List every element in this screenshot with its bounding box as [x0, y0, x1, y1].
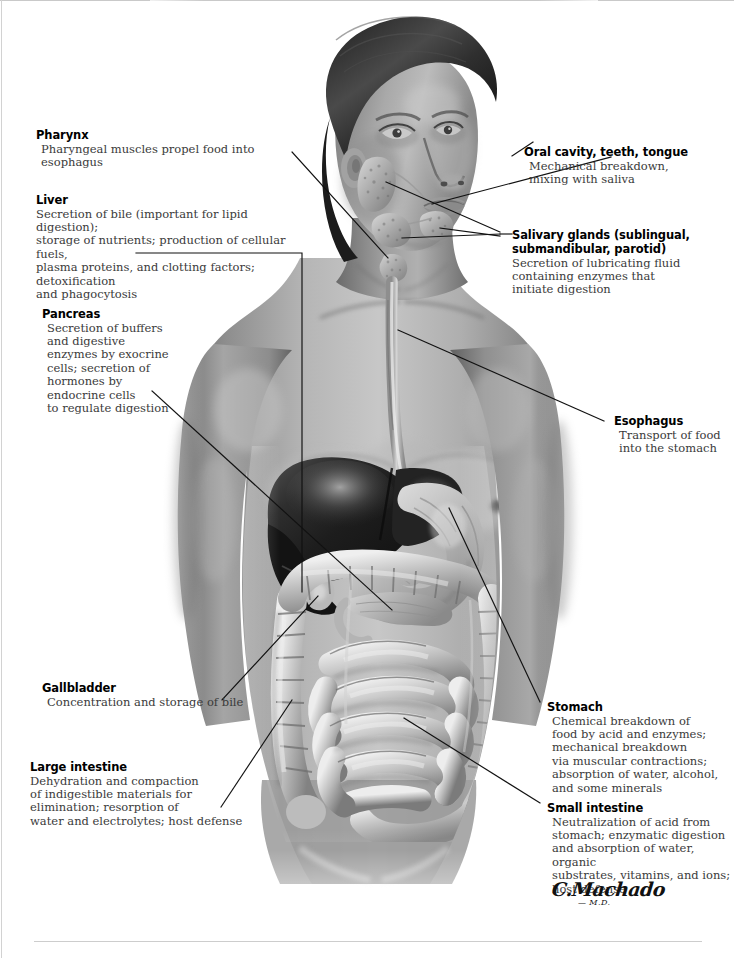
abdominal-organs	[240, 440, 510, 890]
parotid-duct	[393, 172, 428, 202]
clavicle-left	[320, 302, 400, 318]
callout-small-intestine-title: Small intestine	[547, 801, 733, 815]
footer-rule	[34, 941, 702, 942]
callout-stomach[interactable]: Stomach Chemical breakdown of food by ac…	[547, 700, 727, 795]
callout-pancreas-body: Secretion of buffers and digestive enzym…	[42, 322, 217, 416]
leader-pharynx	[292, 152, 388, 258]
clavicle-right	[404, 302, 484, 318]
callout-pharynx-body: Pharyngeal muscles propel food into esop…	[36, 143, 298, 170]
callout-salivary-glands-title: Salivary glands (sublingual, submandibul…	[512, 228, 722, 256]
nipple-marking	[490, 499, 510, 513]
page-top-rule	[0, 0, 734, 1]
arm-right	[450, 344, 564, 726]
pelvis-region	[261, 780, 476, 884]
callout-esophagus[interactable]: Esophagus Transport of food into the sto…	[614, 414, 732, 455]
hair-sideburn	[322, 118, 358, 262]
cystic-duct	[330, 571, 352, 578]
callout-liver[interactable]: Liver Secretion of bile (important for l…	[36, 193, 306, 301]
leader-esophagus	[398, 330, 604, 421]
callout-pharynx-title: Pharynx	[36, 128, 298, 142]
callout-stomach-title: Stomach	[547, 700, 727, 714]
parotid-gland	[357, 157, 395, 212]
callout-large-intestine[interactable]: Large intestine Dehydration and compacti…	[30, 760, 258, 828]
callout-liver-title: Liver	[36, 193, 306, 207]
callout-pancreas[interactable]: Pancreas Secretion of buffers and digest…	[42, 307, 217, 415]
mesenteric-vessel	[345, 572, 352, 724]
inguinal-ligament-right	[382, 848, 448, 880]
liver-organ	[268, 457, 463, 615]
hair	[326, 17, 497, 160]
callout-stomach-body: Chemical breakdown of food by acid and e…	[547, 715, 727, 795]
callout-gallbladder-body: Concentration and storage of bile	[42, 696, 257, 709]
artist-signature: C.Machado — M.D.	[552, 880, 665, 907]
callout-oral-cavity-body: Mechanical breakdown, mixing with saliva	[524, 160, 724, 187]
leader-salivary-parotid	[386, 182, 500, 232]
stomach-organ	[350, 483, 484, 625]
eye-left	[376, 114, 420, 139]
callout-gallbladder[interactable]: Gallbladder Concentration and storage of…	[42, 681, 257, 709]
callout-pancreas-title: Pancreas	[42, 307, 217, 321]
submandibular-gland	[372, 213, 411, 248]
small-intestine-organ	[320, 641, 468, 806]
leader-small-intestine	[404, 718, 540, 803]
head-and-face	[322, 17, 497, 262]
callout-large-intestine-body: Dehydration and compaction of indigestib…	[30, 775, 258, 829]
neck	[336, 218, 468, 300]
leader-salivary-submandibular	[402, 234, 500, 238]
salivary-glands-illustration	[357, 157, 453, 282]
duodenum	[339, 602, 368, 642]
leader-salivary-sublingual	[440, 228, 500, 236]
leader-liver	[136, 253, 302, 592]
cecum	[286, 795, 326, 829]
pancreas-organ	[339, 592, 453, 642]
signature-name: C.Machado	[551, 880, 666, 899]
ear	[341, 148, 367, 188]
submandibular-duct	[408, 218, 432, 224]
figure-page: Pharynx Pharyngeal muscles propel food i…	[0, 0, 734, 958]
callout-esophagus-body: Transport of food into the stomach	[614, 429, 732, 456]
callout-esophagus-title: Esophagus	[614, 414, 732, 428]
callout-salivary-glands-body: Secretion of lubricating fluid containin…	[512, 257, 722, 297]
callout-large-intestine-title: Large intestine	[30, 760, 258, 774]
gallbladder-organ	[306, 571, 352, 610]
page-left-rule	[1, 0, 2, 958]
large-intestine-organ	[273, 564, 510, 836]
callout-liver-body: Secretion of bile (important for lipid d…	[36, 208, 306, 302]
sublingual-gland	[420, 211, 454, 241]
leader-pancreas	[152, 391, 392, 610]
callout-oral-cavity[interactable]: Oral cavity, teeth, tongue Mechanical br…	[524, 145, 724, 186]
leader-stomach	[449, 508, 540, 702]
inguinal-ligament-left	[300, 848, 370, 880]
esophagus-organ	[388, 282, 404, 486]
callout-salivary-glands[interactable]: Salivary glands (sublingual, submandibul…	[512, 228, 722, 297]
callout-pharynx[interactable]: Pharynx Pharyngeal muscles propel food i…	[36, 128, 298, 169]
cervical-gland	[380, 254, 408, 282]
callout-oral-cavity-title: Oral cavity, teeth, tongue	[524, 145, 724, 159]
mouth	[423, 199, 465, 216]
callout-gallbladder-title: Gallbladder	[42, 681, 257, 695]
nose	[424, 138, 464, 186]
eye-right	[432, 112, 468, 136]
face	[335, 49, 478, 250]
